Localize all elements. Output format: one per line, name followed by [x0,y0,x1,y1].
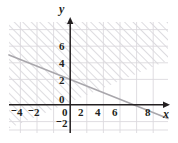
y-tick-label-2: 2 [59,75,65,86]
y-tick-label-neg2: ⁻2 [56,118,68,129]
x-tick-label-8: 8 [145,107,151,118]
y-tick-label-6: 6 [59,41,65,52]
x-tick-label-2: 2 [78,107,84,118]
x-tick-label-neg4: ⁻4 [11,107,23,118]
x-tick-label-4: 4 [95,107,101,118]
y-axis-label: y [59,3,64,15]
graph-figure: ⁻4 ⁻2 0 2 4 6 8 6 4 2 0 ⁻2 y x [0,0,178,143]
y-tick-label-4: 4 [59,58,65,69]
x-tick-label-6: 6 [112,107,118,118]
y-tick-label-0: 0 [59,94,65,105]
coordinate-plane [0,0,178,143]
x-tick-label-neg2: ⁻2 [28,107,40,118]
x-axis-label: x [163,108,169,120]
